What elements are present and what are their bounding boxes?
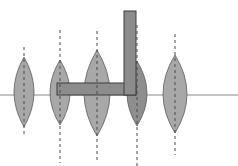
optics-diagram xyxy=(0,0,238,166)
object-vertical-bar xyxy=(124,11,136,95)
diagram-canvas xyxy=(0,0,238,166)
